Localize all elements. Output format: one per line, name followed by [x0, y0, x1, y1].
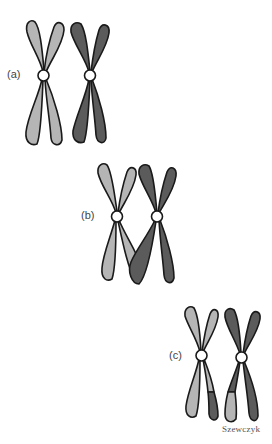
panel-a-chromosomes — [26, 21, 109, 145]
dark-chromosome-c — [225, 309, 260, 422]
centromere-b-dark — [152, 211, 163, 222]
centromere-a-dark — [85, 70, 96, 81]
artist-signature: Szewczyk — [222, 424, 260, 434]
dark-chromosome-a — [71, 23, 109, 143]
panel-b-chromosomes — [98, 164, 176, 284]
panel-label-a: (a) — [7, 68, 20, 80]
centromere-c-light — [196, 350, 207, 361]
panel-label-b: (b) — [81, 209, 94, 221]
dark-chromosome-b — [130, 165, 177, 284]
chromosome-illustration — [0, 0, 272, 444]
centromere-c-dark — [236, 352, 247, 363]
panel-c-chromosomes — [185, 307, 260, 422]
light-chromosome-c — [185, 307, 218, 420]
centromere-b-light — [112, 211, 123, 222]
crossing-over-diagram: (a) (b) (c) Szewczyk — [0, 0, 272, 444]
light-chromosome-a — [26, 21, 64, 145]
panel-label-c: (c) — [169, 349, 182, 361]
centromere-a-light — [38, 70, 49, 81]
